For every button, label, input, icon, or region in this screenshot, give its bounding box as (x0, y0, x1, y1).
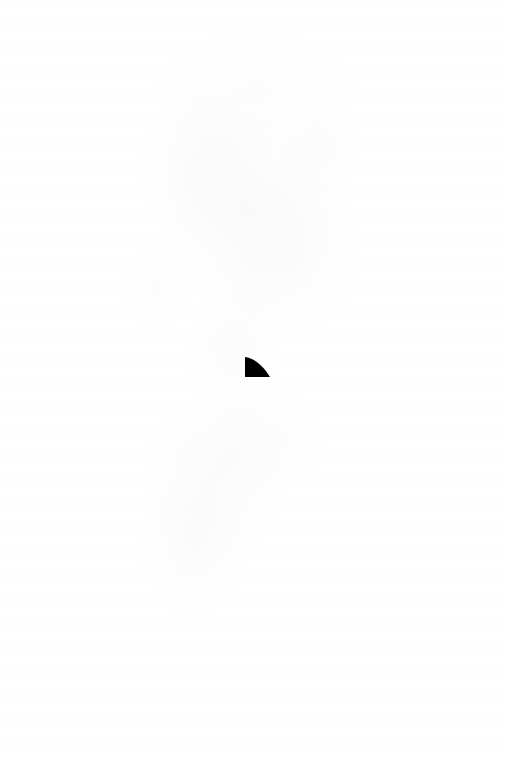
triangle-mark (245, 357, 270, 377)
paper-texture (0, 0, 508, 758)
paper-grain-overlay (0, 0, 508, 758)
page-text-content (0, 0, 1, 1)
scanned-page (0, 0, 508, 758)
